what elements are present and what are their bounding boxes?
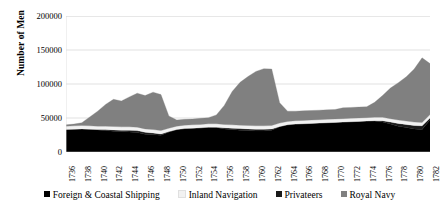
x-tick-label: 1774 (370, 152, 378, 182)
x-tick-label: 1754 (211, 152, 219, 182)
y-tick-label: 150000 (10, 46, 62, 54)
x-tick-label: 1770 (338, 152, 346, 182)
x-tick-label: 1756 (227, 152, 235, 182)
x-tick-label: 1744 (132, 152, 140, 182)
x-tick-label: 1742 (116, 152, 124, 182)
y-tick-label: 0 (10, 148, 62, 156)
legend-item[interactable]: Inland Navigation (178, 190, 258, 201)
x-tick-label: 1748 (164, 152, 172, 182)
legend-swatch-icon (178, 190, 186, 198)
x-tick-label: 1762 (275, 152, 283, 182)
x-tick-label: 1772 (354, 152, 362, 182)
x-tick-label: 1750 (180, 152, 188, 182)
x-tick-label: 1752 (196, 152, 204, 182)
x-tick-label: 1766 (306, 152, 314, 182)
x-tick-label: 1764 (291, 152, 299, 182)
legend-label: Royal Navy (350, 190, 396, 200)
x-tick-label: 1780 (417, 152, 425, 182)
x-tick-label: 1778 (401, 152, 409, 182)
x-tick-label: 1736 (69, 152, 77, 182)
x-tick-label: 1776 (386, 152, 394, 182)
legend-swatch-icon (341, 191, 347, 197)
legend-item[interactable]: Privateers (276, 190, 323, 200)
x-tick-label: 1768 (322, 152, 330, 182)
x-tick-label: 1738 (85, 152, 93, 182)
y-tick-label: 100000 (10, 80, 62, 88)
y-axis-tick-labels: 050000100000150000200000 (10, 0, 62, 160)
plot-area (66, 16, 430, 152)
legend-item[interactable]: Foreign & Coastal Shipping (44, 190, 160, 200)
legend-label: Inland Navigation (189, 190, 258, 200)
legend-label: Foreign & Coastal Shipping (53, 190, 160, 200)
y-tick-label: 200000 (10, 12, 62, 20)
chart-legend: Foreign & Coastal ShippingInland Navigat… (0, 186, 439, 204)
legend-swatch-icon (276, 191, 282, 197)
legend-swatch-icon (44, 191, 50, 197)
stacked-area-chart (66, 16, 430, 152)
y-tick-label: 50000 (10, 114, 62, 122)
legend-label: Privateers (285, 190, 323, 200)
x-axis-tick-labels: 1736173817401742174417461748175017521754… (66, 154, 430, 184)
legend-item[interactable]: Royal Navy (341, 190, 396, 200)
x-tick-label: 1782 (433, 152, 441, 182)
x-tick-label: 1740 (101, 152, 109, 182)
x-tick-label: 1760 (259, 152, 267, 182)
x-tick-label: 1746 (148, 152, 156, 182)
x-tick-label: 1758 (243, 152, 251, 182)
